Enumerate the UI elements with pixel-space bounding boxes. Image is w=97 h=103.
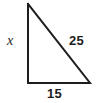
right-triangle-figure: x 25 15 [0,0,97,103]
hypotenuse-label: 25 [69,34,84,47]
base-label: 15 [47,87,62,100]
vertical-leg-label: x [7,34,13,47]
